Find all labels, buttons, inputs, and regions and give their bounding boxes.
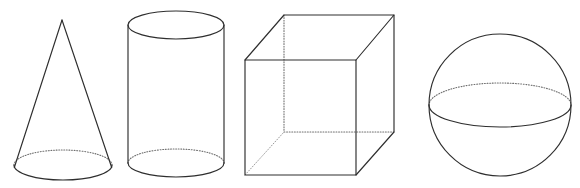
shape-cylinder — [128, 11, 224, 177]
cylinder-body-fill — [128, 25, 224, 177]
shape-sphere — [429, 34, 571, 176]
sphere-fill — [429, 34, 571, 176]
solids-drawing-canvas: Four three-dimensional geometric solids … — [0, 0, 580, 188]
cube-silhouette-fill — [245, 15, 394, 175]
geometric-solids-figure: Four three-dimensional geometric solids … — [0, 0, 580, 188]
shape-cone — [14, 20, 112, 182]
cone-body-fill — [14, 20, 112, 182]
shape-cube — [245, 15, 394, 175]
